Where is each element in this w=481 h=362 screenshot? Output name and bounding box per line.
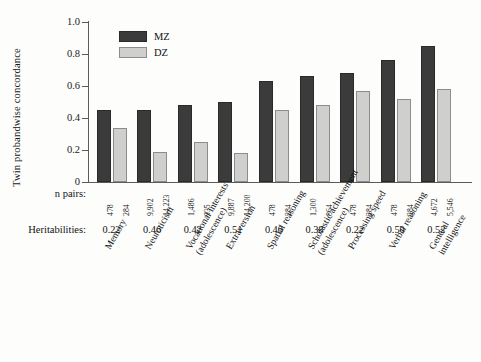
bar-mz <box>218 102 232 182</box>
bar-dz <box>356 91 370 182</box>
y-tick-mark <box>82 22 88 23</box>
heritabilities-row-label: Heritabilities: <box>2 224 86 235</box>
y-tick-mark <box>82 54 88 55</box>
y-tick-label: 0.8 <box>50 49 80 59</box>
category-label: Spatial reasoning <box>265 189 307 252</box>
bar-dz <box>113 128 127 182</box>
y-axis-title: Twin probandwise concordance <box>11 0 22 187</box>
category-label: Verbal reasoning <box>387 190 428 251</box>
y-tick-mark <box>82 86 88 87</box>
bar-dz <box>275 110 289 182</box>
n-pairs-value: 1,300 <box>310 198 318 216</box>
y-tick-label: 0 <box>50 177 80 187</box>
n-pairs-value: 478 <box>269 204 277 216</box>
y-tick-label: 0.6 <box>50 81 80 91</box>
bar-mz <box>97 110 111 182</box>
y-tick-label: 0.4 <box>50 113 80 123</box>
plot-area <box>89 22 470 182</box>
n-pairs-value: 4,672 <box>431 198 439 216</box>
n-pairs-value: 478 <box>107 204 115 216</box>
bar-mz <box>178 105 192 182</box>
category-label-line1: Spatial reasoning <box>264 188 307 251</box>
bar-mz <box>381 60 395 182</box>
y-tick-mark <box>82 118 88 119</box>
n-pairs-value: 1,486 <box>188 198 196 216</box>
x-axis-line <box>88 182 472 183</box>
bar-dz <box>437 89 451 182</box>
bar-dz <box>234 153 248 182</box>
bar-mz <box>300 76 314 182</box>
bar-mz <box>259 81 273 182</box>
bar-dz <box>153 152 167 182</box>
n-pairs-value: 9,902 <box>147 198 155 216</box>
y-tick-label: 1.0 <box>50 17 80 27</box>
bar-mz <box>340 73 354 182</box>
bar-mz <box>421 46 435 182</box>
n-pairs-row-label: n pairs: <box>8 188 86 199</box>
y-tick-mark <box>82 182 88 183</box>
category-label-line1: Verbal reasoning <box>386 189 428 251</box>
n-pairs-value: 284 <box>123 204 131 216</box>
n-pairs-value: 478 <box>391 204 399 216</box>
bar-dz <box>194 142 208 182</box>
chart-figure: Twin probandwise concordance 1.00.80.60.… <box>0 0 481 362</box>
bar-mz <box>137 110 151 182</box>
bar-dz <box>397 99 411 182</box>
bar-dz <box>316 105 330 182</box>
y-tick-mark <box>82 150 88 151</box>
y-tick-label: 0.2 <box>50 145 80 155</box>
